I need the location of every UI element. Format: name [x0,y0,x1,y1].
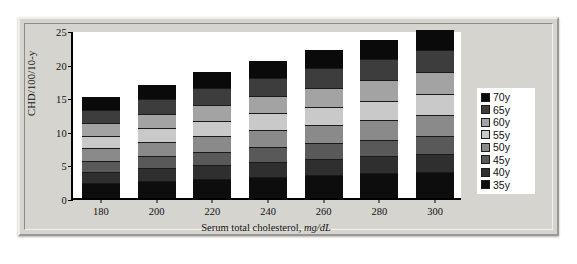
bar-segment-45y [138,156,176,168]
bar-segment-60y [82,123,120,136]
legend-item: 35y [481,179,532,192]
x-axis-label-text: Serum total cholesterol, [201,222,301,233]
legend-item: 55y [481,129,532,142]
x-tick-label: 240 [260,206,276,217]
x-tick-mark [156,198,157,203]
bar-segment-35y [249,177,287,199]
legend-swatch-icon [481,93,490,102]
legend-label: 45y [493,155,510,166]
stacked-bar [416,30,454,198]
y-tick-label: 10 [33,127,73,138]
bar-segment-40y [138,168,176,180]
stacked-bar [82,97,120,198]
bar-segment-60y [416,72,454,94]
y-tick-mark [68,166,73,167]
legend-swatch-icon [481,155,490,164]
bar-segment-50y [193,136,231,151]
legend-swatch-icon [481,143,490,152]
bar-segment-50y [305,125,343,143]
bar-segment-60y [138,114,176,128]
bar-segment-45y [305,143,343,159]
legend-item: 45y [481,154,532,167]
bar-segment-70y [305,50,343,67]
y-tick-mark [68,99,73,100]
x-axis-label-units: mg/dL [304,222,331,233]
x-tick-mark [379,198,380,203]
legend-label: 65y [493,105,510,116]
bar-segment-35y [193,179,231,198]
bar-segment-40y [305,159,343,175]
y-tick-label: 5 [33,161,73,172]
bar-segment-45y [249,147,287,162]
legend-label: 55y [493,130,510,141]
bar-segment-70y [82,97,120,110]
legend-swatch-icon [481,118,490,127]
legend-label: 50y [493,142,510,153]
legend-swatch-icon [481,130,490,139]
bar-segment-65y [138,99,176,114]
bar-segment-55y [360,101,398,120]
bar-segment-45y [82,161,120,172]
x-tick-mark [435,198,436,203]
bar-segment-65y [416,50,454,73]
legend-label: 35y [493,180,510,191]
bar-segment-50y [249,130,287,147]
bar-segment-35y [138,181,176,198]
y-tick-label: 25 [33,27,73,38]
y-tick-label: 0 [33,195,73,206]
bar-segment-55y [138,128,176,142]
legend-swatch-icon [481,180,490,189]
x-axis-label: Serum total cholesterol, mg/dL [71,222,461,233]
bar-segment-40y [416,154,454,172]
x-tick-mark [212,198,213,203]
bar-segment-65y [249,78,287,96]
x-tick-label: 280 [372,206,388,217]
bar-segment-70y [360,40,398,59]
bar-segment-50y [416,115,454,136]
bar-segment-45y [193,152,231,165]
x-tick-mark [323,198,324,203]
bar-segment-65y [305,68,343,88]
y-tick-mark [68,200,73,201]
stacked-bar [305,50,343,198]
x-tick-label: 200 [149,206,165,217]
bar-segment-60y [193,105,231,121]
y-tick-mark [68,66,73,67]
chart-figure: CHD/100/10-y 0510152025 1802002202402602… [0,0,577,264]
bar-segment-70y [416,30,454,49]
bar-segment-60y [305,88,343,107]
y-tick-label: 20 [33,60,73,71]
x-tick-mark [100,198,101,203]
bar-segment-60y [249,96,287,113]
x-tick-label: 300 [427,206,443,217]
stacked-bar [249,61,287,198]
plot-area: 0510152025 180200220240260280300 [71,32,461,200]
bar-segment-65y [360,59,398,81]
bar-segment-35y [305,175,343,198]
bar-segment-50y [360,120,398,139]
x-tick-label: 260 [316,206,332,217]
bar-segment-65y [193,88,231,105]
bar-segment-35y [82,183,120,198]
bar-segment-45y [416,136,454,154]
bar-segment-35y [416,172,454,198]
y-tick-label: 15 [33,94,73,105]
bar-segment-55y [193,121,231,136]
bar-segment-55y [82,136,120,149]
bar-segment-70y [138,85,176,99]
bar-segment-70y [249,61,287,78]
stacked-bar [138,85,176,198]
legend-item: 65y [481,104,532,117]
bar-segment-55y [305,107,343,125]
legend-item: 70y [481,91,532,104]
x-tick-mark [268,198,269,203]
y-tick-mark [68,32,73,33]
bar-segment-50y [138,142,176,156]
bar-segment-50y [82,148,120,161]
bar-segment-40y [193,165,231,178]
legend-item: 40y [481,166,532,179]
legend-label: 40y [493,167,510,178]
bar-segment-45y [360,140,398,157]
legend-item: 60y [481,116,532,129]
bar-segment-40y [360,156,398,173]
